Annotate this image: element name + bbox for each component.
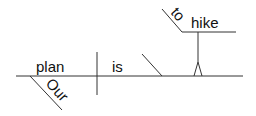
word-subject-modifier: Our xyxy=(43,75,72,105)
pedestal-right xyxy=(198,62,202,76)
predicate-slash xyxy=(142,54,162,76)
word-predicate-nominative: hike xyxy=(191,14,219,31)
sentence-diagram: plan is hike to Our xyxy=(0,0,256,116)
word-verb: is xyxy=(112,58,123,75)
word-infinitive-marker: to xyxy=(168,4,189,25)
pedestal-left xyxy=(194,62,198,76)
word-subject: plan xyxy=(36,58,64,75)
